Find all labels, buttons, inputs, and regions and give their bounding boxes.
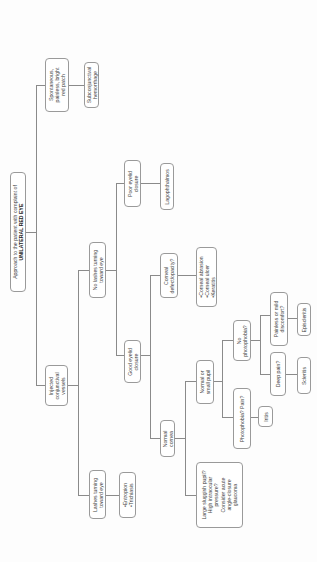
connector — [78, 270, 79, 495]
connector — [141, 183, 160, 184]
node-text: pressure? — [213, 483, 219, 506]
node-text: Injected — [47, 376, 53, 394]
node-text: toward eye — [98, 482, 104, 507]
connector — [286, 374, 297, 375]
node-text: Poor eyelid — [126, 171, 132, 197]
node-injected-vessels: Injectedconjunctivalvessels — [45, 365, 68, 406]
connector — [116, 355, 124, 356]
node-episcleritis: Episcleritis — [297, 303, 311, 336]
connector — [150, 275, 160, 276]
connector — [260, 315, 261, 374]
node-text: Normal or — [199, 371, 205, 394]
node-text: High intraocular — [207, 477, 213, 513]
node-text: Episcleritis — [301, 307, 307, 332]
connector — [68, 385, 78, 386]
connector — [175, 438, 185, 439]
connector — [36, 85, 45, 86]
node-text: Deep pain? — [275, 361, 281, 388]
connector — [222, 340, 233, 341]
node-normal-cornea: Normalcornea — [160, 420, 175, 457]
connector — [106, 495, 119, 496]
node-text: Large sluggish pupil? — [201, 470, 207, 519]
connector — [150, 438, 160, 439]
node-subconjunctival-hemorrhage: Subconjunctivalhemorrhage — [84, 62, 99, 108]
connector — [251, 417, 258, 418]
node-text: Scleritis — [301, 366, 307, 384]
node-text: No — [236, 337, 242, 344]
node-text: Lashes turning — [91, 477, 97, 511]
node-text: Good eyelid — [126, 348, 132, 376]
node-text: angle-closure — [226, 479, 232, 510]
node-normal-pupil: Normal orsmall pupil — [196, 360, 214, 404]
node-good-closure: Good eyelidclosure — [124, 340, 141, 383]
node-no-lashes: No lashes turningtoward eye — [89, 242, 106, 298]
connector — [185, 381, 186, 495]
connector — [116, 183, 117, 355]
node-painless: Painless or milddiscomfort? — [270, 292, 288, 346]
node-text: Painless or mild — [273, 301, 279, 338]
root-title-line2: UNILATERAL RED EYE — [18, 204, 24, 261]
node-text: conjunctival — [53, 372, 59, 399]
flowchart-canvas: Approach to the patient with complaint o… — [0, 0, 317, 562]
node-text: glaucoma — [232, 484, 238, 507]
connector — [260, 315, 270, 316]
node-text: small pupil — [205, 370, 211, 395]
node-text: Subconjunctival — [85, 67, 91, 103]
connector — [78, 495, 89, 496]
root-node: Approach to the patient with complaint o… — [10, 172, 26, 292]
node-spontaneous: Spontaneous,painless, brightred patch — [45, 58, 69, 112]
node-text: vessels — [60, 377, 66, 394]
node-text: closure — [133, 175, 139, 192]
node-text: closure — [133, 353, 139, 370]
node-text: Spontaneous, — [48, 69, 54, 101]
node-text: cornea — [168, 431, 174, 447]
connector — [106, 270, 116, 271]
node-text: painless, bright — [54, 68, 60, 103]
connector — [26, 232, 36, 233]
connector — [36, 385, 45, 386]
list-item: Trichiasis — [128, 483, 134, 507]
node-text: Lagophthalmos — [164, 169, 170, 204]
list-item: Entropion — [121, 483, 127, 507]
list-item: Corneal ulcer — [203, 256, 209, 297]
connector — [185, 381, 196, 382]
node-text: Iritis — [262, 412, 268, 422]
node-deep-pain: Deep pain? — [270, 352, 286, 396]
connector — [150, 275, 151, 438]
root-title-line1: Approach to the patient with complaint o… — [12, 185, 18, 279]
node-lagophthalmos: Lagophthalmos — [160, 163, 174, 210]
node-scleritis: Scleritis — [297, 357, 311, 394]
connector — [69, 85, 84, 86]
node-text: Normal — [161, 430, 167, 447]
node-photophobia-pain: Photophobia? Pain? — [233, 388, 251, 449]
connector — [222, 340, 223, 417]
connector — [288, 318, 297, 319]
connector — [260, 374, 270, 375]
node-text: No lashes turning — [91, 250, 97, 290]
node-corneal-defect: Cornealdefect/opacity? — [160, 253, 178, 298]
node-text: Consider acute — [220, 478, 226, 513]
node-text: discomfort? — [279, 306, 285, 333]
connector — [185, 495, 196, 496]
node-corneal-diagnoses: Corneal abrasionCorneal ulcerKeratitis — [196, 247, 217, 307]
node-text: defect/opacity? — [169, 258, 175, 293]
node-large-pupil-glaucoma: Large sluggish pupil?High intraocularpre… — [196, 462, 243, 528]
node-text: red patch — [60, 74, 66, 96]
node-text: Photophobia? Pain? — [239, 395, 245, 442]
node-lashes: Lashes turningtoward eye — [89, 470, 106, 519]
connector — [214, 381, 222, 382]
connector — [36, 85, 37, 385]
node-text: photophobia? — [242, 325, 248, 356]
connector — [116, 183, 124, 184]
node-text: Corneal — [163, 266, 169, 284]
node-text: hemorrhage — [92, 71, 98, 99]
list-item: Corneal abrasion — [197, 256, 203, 297]
connector — [78, 270, 89, 271]
node-text: toward eye — [98, 257, 104, 282]
connector — [222, 417, 233, 418]
list-item: Keratitis — [210, 256, 216, 297]
node-iritis: Iritis — [258, 406, 273, 427]
node-no-photophobia: Nophotophobia? — [233, 320, 251, 361]
node-entropion-trichiasis: EntropionTrichiasis — [119, 472, 136, 518]
connector — [141, 355, 150, 356]
